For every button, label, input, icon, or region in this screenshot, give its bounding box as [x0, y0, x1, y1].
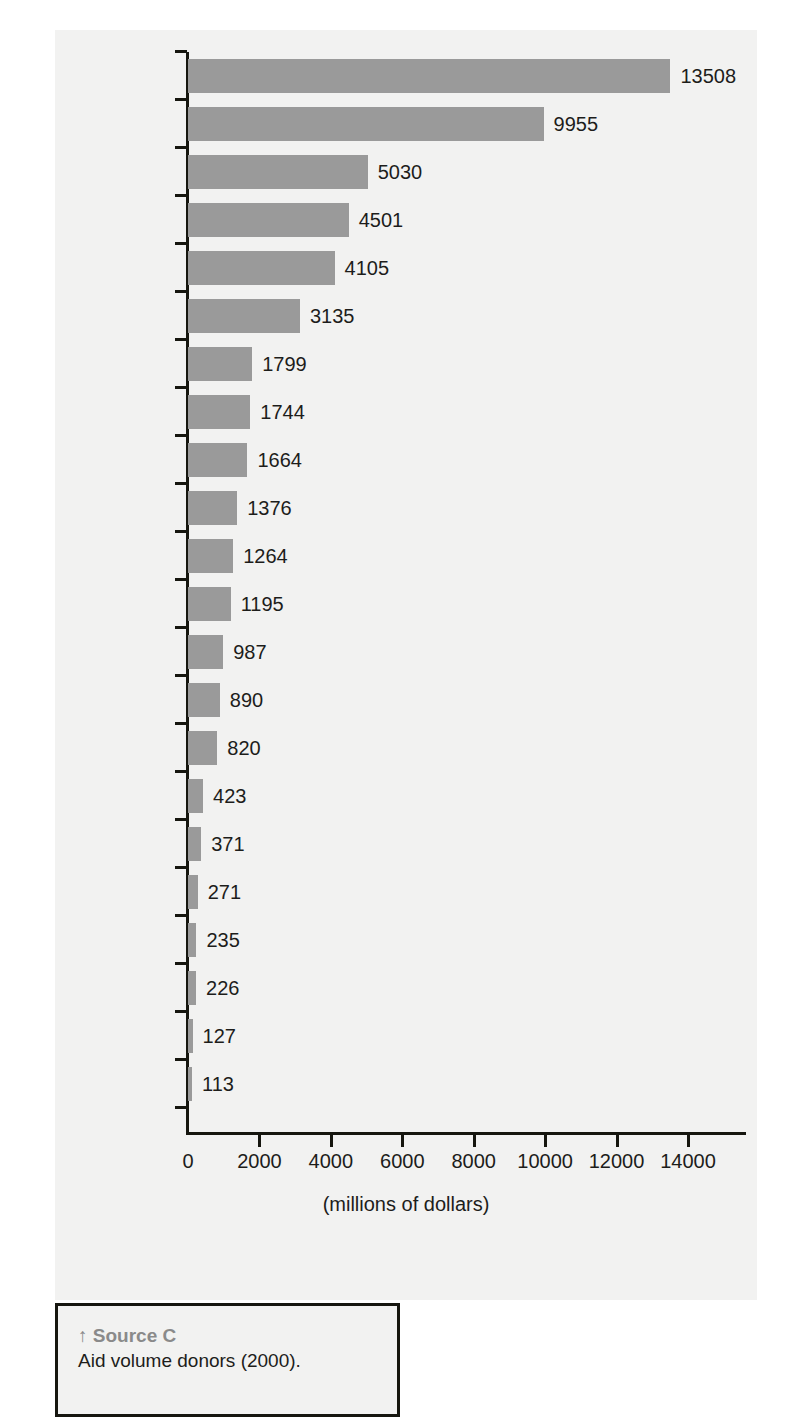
bar-chart-plot-area: Japan13508USA9955Germany5030UK4501France… [55, 30, 757, 1300]
bar [188, 827, 201, 861]
category-tick [175, 434, 187, 437]
category-tick [175, 578, 187, 581]
category-tick [175, 482, 187, 485]
x-axis-title: (millions of dollars) [55, 1193, 757, 1216]
bar-value-label: 113 [202, 1060, 234, 1108]
bar [188, 491, 237, 525]
value-tick-label: 6000 [380, 1150, 425, 1173]
category-tick [175, 626, 187, 629]
value-tick [616, 1135, 619, 1147]
value-tick [258, 1135, 261, 1147]
category-tick [175, 1058, 187, 1061]
category-tick [175, 338, 187, 341]
caption-title-text: Source C [93, 1325, 176, 1346]
up-arrow-icon: ↑ [78, 1325, 88, 1346]
bar-value-label: 226 [206, 964, 239, 1012]
category-tick [175, 722, 187, 725]
bar [188, 347, 252, 381]
bar-value-label: 4501 [359, 196, 404, 244]
category-tick [175, 98, 187, 101]
category-tick [175, 194, 187, 197]
bar [188, 1067, 192, 1101]
bar-value-label: 987 [233, 628, 266, 676]
bar-value-label: 1376 [247, 484, 292, 532]
bar [188, 923, 196, 957]
bar [188, 587, 231, 621]
value-tick-label: 2000 [237, 1150, 282, 1173]
bar-value-label: 1195 [241, 580, 284, 628]
value-tick-label: 4000 [309, 1150, 354, 1173]
source-caption-box: ↑ Source C Aid volume donors (2000). [55, 1303, 400, 1417]
bar [188, 299, 300, 333]
category-tick [175, 866, 187, 869]
value-tick [473, 1135, 476, 1147]
caption-title: ↑ Source C [78, 1325, 397, 1347]
category-tick [175, 1106, 187, 1109]
bar [188, 107, 544, 141]
value-tick-label: 8000 [451, 1150, 496, 1173]
value-tick [401, 1135, 404, 1147]
category-tick [175, 962, 187, 965]
bar [188, 875, 198, 909]
category-tick [175, 50, 187, 53]
bar [188, 779, 203, 813]
category-tick [175, 1010, 187, 1013]
category-tick [175, 674, 187, 677]
category-tick [175, 770, 187, 773]
bar [188, 971, 196, 1005]
category-tick [175, 530, 187, 533]
category-tick [175, 914, 187, 917]
bar [188, 731, 217, 765]
category-tick [175, 290, 187, 293]
bar [188, 1019, 193, 1053]
bar-value-label: 1799 [262, 340, 307, 388]
bar-value-label: 127 [203, 1012, 236, 1060]
value-tick-label: 12000 [589, 1150, 645, 1173]
category-tick [175, 386, 187, 389]
bar-value-label: 371 [211, 820, 244, 868]
bar-value-label: 4105 [345, 244, 390, 292]
value-tick [330, 1135, 333, 1147]
figure-panel: Japan13508USA9955Germany5030UK4501France… [55, 30, 757, 1300]
caption-description: Aid volume donors (2000). [78, 1349, 397, 1374]
category-tick [175, 818, 187, 821]
value-tick [687, 1135, 690, 1147]
value-tick-label: 14000 [660, 1150, 716, 1173]
bar [188, 635, 223, 669]
bar [188, 395, 250, 429]
bar [188, 155, 368, 189]
bar-value-label: 1744 [260, 388, 305, 436]
bar-value-label: 9955 [554, 100, 599, 148]
bar [188, 539, 233, 573]
bar-value-label: 13508 [680, 52, 736, 100]
value-tick-label: 10000 [517, 1150, 573, 1173]
bar-value-label: 1264 [243, 532, 288, 580]
value-axis-line [186, 1132, 746, 1135]
bar-value-label: 5030 [378, 148, 423, 196]
bar [188, 443, 247, 477]
bar [188, 251, 335, 285]
bar [188, 683, 220, 717]
bar-value-label: 1664 [257, 436, 302, 484]
bar-value-label: 890 [230, 676, 263, 724]
value-tick-label: 0 [182, 1150, 193, 1173]
bar [188, 59, 670, 93]
bar [188, 203, 349, 237]
bar-value-label: 235 [206, 916, 239, 964]
bar-value-label: 271 [208, 868, 241, 916]
category-tick [175, 242, 187, 245]
value-tick [544, 1135, 547, 1147]
bar-value-label: 423 [213, 772, 246, 820]
category-tick [175, 146, 187, 149]
bar-value-label: 3135 [310, 292, 355, 340]
bar-value-label: 820 [227, 724, 260, 772]
